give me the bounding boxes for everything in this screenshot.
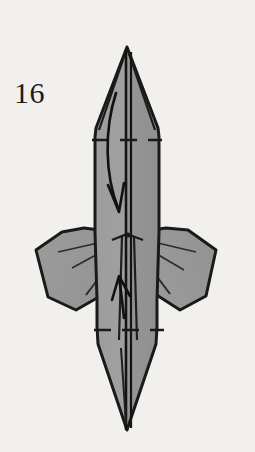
origami-diagram-figure: 16	[0, 0, 255, 452]
hub-point	[125, 232, 130, 237]
origami-illustration	[0, 0, 255, 452]
